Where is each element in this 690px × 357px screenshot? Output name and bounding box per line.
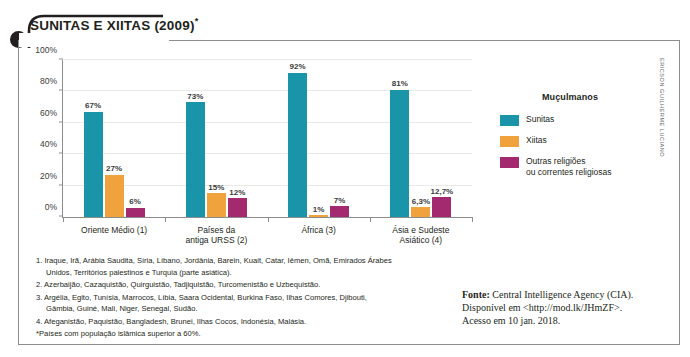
bar-group: 67%27%6%Oriente Médio (1) bbox=[63, 60, 165, 217]
x-axis-category-label: Ásia e SudesteAsiático (4) bbox=[392, 225, 449, 245]
legend-item: Sunitas bbox=[500, 114, 640, 126]
source-attribution: Fonte: Central Intelligence Agency (CIA)… bbox=[462, 288, 642, 328]
bar-value-label: 12% bbox=[229, 188, 245, 197]
chart-plot-area: 0%20%40%60%80%100%67%27%6%Oriente Médio … bbox=[24, 52, 476, 252]
footnote-asterisk: *Países com população islâmica superior … bbox=[36, 328, 396, 340]
y-axis-tick-label: 80% bbox=[40, 76, 57, 86]
legend-item: Xiitas bbox=[500, 135, 640, 147]
bar-xiitas: 27% bbox=[105, 175, 124, 217]
x-axis-category-label: Países daantiga URSS (2) bbox=[185, 225, 247, 245]
source-label: Fonte: bbox=[462, 289, 490, 300]
bar-outras: 6% bbox=[126, 208, 145, 217]
bar-value-label: 12,7% bbox=[431, 187, 454, 196]
x-axis-tick-mark bbox=[268, 217, 269, 222]
bar-xiitas: 15% bbox=[207, 193, 226, 217]
x-axis-tick-mark bbox=[472, 217, 473, 222]
bar-value-label: 15% bbox=[208, 183, 224, 192]
bar-value-label: 7% bbox=[334, 196, 346, 205]
chart-legend: Muçulmanos SunitasXiitasOutras religiões… bbox=[500, 92, 640, 186]
figure-container: SUNITAS E XIITAS (2009)* 0%20%40%60%80%1… bbox=[0, 0, 690, 357]
bar-value-label: 92% bbox=[290, 62, 306, 71]
bar-outras: 12% bbox=[228, 198, 247, 217]
y-axis-tick-label: 40% bbox=[40, 139, 57, 149]
bar-sunitas: 73% bbox=[186, 102, 205, 217]
legend-title: Muçulmanos bbox=[500, 92, 640, 102]
footnote-item: 3. Argélia, Egito, Tunísia, Marrocos, Lí… bbox=[36, 292, 396, 315]
x-axis-tick-mark bbox=[63, 217, 64, 222]
bar-sunitas: 67% bbox=[84, 112, 103, 217]
y-axis-tick-label: 100% bbox=[35, 45, 57, 55]
legend-color-swatch bbox=[500, 157, 519, 168]
bar-value-label: 1% bbox=[313, 205, 325, 214]
bar-xiitas: 1% bbox=[309, 215, 328, 217]
legend-items: SunitasXiitasOutras religiõesou corrente… bbox=[500, 114, 640, 177]
legend-color-swatch bbox=[500, 136, 519, 147]
chart-title-asterisk: * bbox=[195, 16, 199, 26]
bar-sunitas: 92% bbox=[288, 73, 307, 217]
x-axis-category-label: Oriente Médio (1) bbox=[81, 225, 147, 235]
legend-item: Outras religiõesou correntes religiosas bbox=[500, 156, 640, 177]
footnotes: 1. Iraque, Irã, Arábia Saudita, Síria, L… bbox=[36, 255, 396, 341]
bar-outras: 12,7% bbox=[432, 197, 451, 217]
y-axis-tick-label: 60% bbox=[40, 108, 57, 118]
x-axis-tick-mark bbox=[165, 217, 166, 222]
bar-group: 81%6,3%12,7%Ásia e SudesteAsiático (4) bbox=[370, 60, 472, 217]
bar-value-label: 6% bbox=[129, 197, 141, 206]
legend-item-label: Sunitas bbox=[526, 114, 554, 125]
legend-item-label: Outras religiõesou correntes religiosas bbox=[526, 156, 612, 177]
bar-value-label: 27% bbox=[106, 164, 122, 173]
bar-sunitas: 81% bbox=[390, 90, 409, 217]
y-axis-tick-label: 20% bbox=[40, 171, 57, 181]
chart-axes: 0%20%40%60%80%100%67%27%6%Oriente Médio … bbox=[62, 60, 472, 218]
x-axis-category-label: África (3) bbox=[301, 225, 335, 235]
legend-item-label: Xiitas bbox=[526, 135, 547, 146]
bar-outras: 7% bbox=[330, 206, 349, 217]
footnote-item: 4. Afeganistão, Paquistão, Bangladesh, B… bbox=[36, 316, 396, 328]
bar-value-label: 6,3% bbox=[412, 197, 430, 206]
legend-color-swatch bbox=[500, 115, 519, 126]
bar-group: 73%15%12%Países daantiga URSS (2) bbox=[165, 60, 267, 217]
bar-group: 92%1%7%África (3) bbox=[268, 60, 370, 217]
footnote-item: 2. Azerbaijão, Cazaquistão, Quirguistão,… bbox=[36, 279, 396, 291]
x-axis-tick-mark bbox=[370, 217, 371, 222]
page-title: SUNITAS E XIITAS (2009)* bbox=[30, 16, 198, 33]
footnote-item: 1. Iraque, Irã, Arábia Saudita, Síria, L… bbox=[36, 255, 396, 278]
bar-value-label: 81% bbox=[392, 79, 408, 88]
bar-value-label: 67% bbox=[85, 101, 101, 110]
y-axis-tick-label: 0% bbox=[45, 202, 57, 212]
chart-title-text: SUNITAS E XIITAS (2009) bbox=[30, 18, 195, 33]
bar-value-label: 73% bbox=[187, 92, 203, 101]
illustrator-credit: ERICSON GUILHERME LUCIANO bbox=[659, 58, 665, 157]
bar-xiitas: 6,3% bbox=[411, 207, 430, 217]
